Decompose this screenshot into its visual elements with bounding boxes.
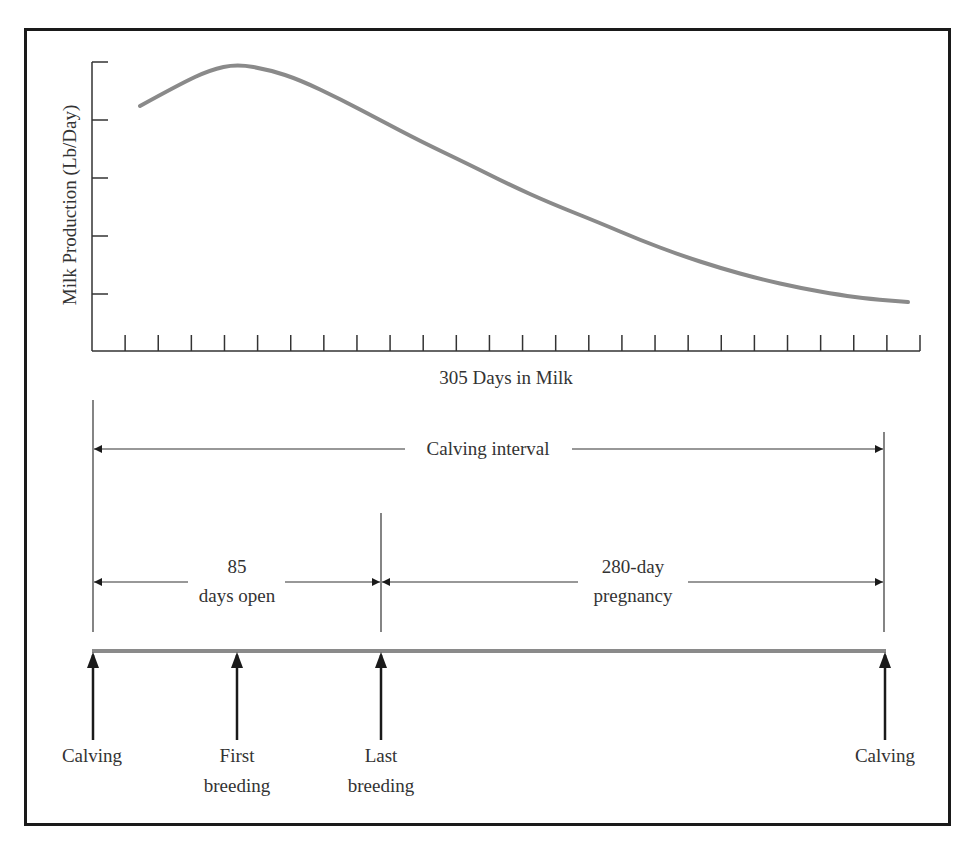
x-axis-ticks: [125, 335, 920, 351]
pregnancy-label: pregnancy: [593, 585, 672, 607]
diagram-canvas: [0, 0, 963, 851]
event-label-calving-start: Calving: [62, 745, 122, 767]
event-label-last-breeding-2: breeding: [348, 775, 414, 797]
calving-diagram: Milk Production (Lb/Day) 305 Days in Mil…: [0, 0, 963, 851]
event-label-first-breeding-1: First: [220, 745, 255, 767]
event-label-calving-end: Calving: [855, 745, 915, 767]
days-open-label: days open: [199, 585, 276, 607]
x-axis-label: 305 Days in Milk: [439, 367, 573, 389]
event-label-last-breeding-1: Last: [365, 745, 398, 767]
y-axis-label: Milk Production (Lb/Day): [59, 95, 81, 315]
chart-axes: [92, 62, 920, 351]
days-open-value: 85: [228, 556, 247, 578]
y-axis-ticks: [92, 62, 108, 294]
pregnancy-value: 280-day: [602, 556, 664, 578]
lactation-curve: [140, 66, 908, 303]
calving-interval-label: Calving interval: [427, 438, 550, 460]
event-arrows: [87, 652, 891, 740]
event-label-first-breeding-2: breeding: [204, 775, 270, 797]
